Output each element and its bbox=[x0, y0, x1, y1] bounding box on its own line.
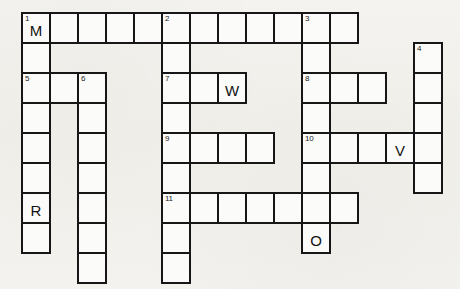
grid-cell[interactable] bbox=[77, 102, 107, 134]
cell-letter: R bbox=[23, 194, 49, 222]
grid-cell[interactable]: 4 bbox=[413, 42, 443, 74]
grid-cell[interactable] bbox=[189, 12, 219, 44]
grid-cell[interactable]: R bbox=[21, 192, 51, 224]
grid-cell[interactable]: O bbox=[301, 222, 331, 254]
grid-cell[interactable] bbox=[413, 132, 443, 164]
cell-clue-number: 6 bbox=[81, 74, 85, 83]
grid-cell[interactable] bbox=[301, 42, 331, 74]
grid-cell[interactable] bbox=[21, 42, 51, 74]
grid-cell[interactable] bbox=[245, 12, 275, 44]
grid-cell[interactable] bbox=[217, 132, 247, 164]
grid-cell[interactable]: 9 bbox=[161, 132, 191, 164]
grid-cell[interactable] bbox=[77, 12, 107, 44]
grid-cell[interactable]: V bbox=[385, 132, 415, 164]
grid-cell[interactable]: W bbox=[217, 72, 247, 104]
grid-cell[interactable] bbox=[273, 12, 303, 44]
grid-cell[interactable] bbox=[77, 252, 107, 284]
grid-cell[interactable] bbox=[301, 162, 331, 194]
grid-cell[interactable] bbox=[329, 72, 359, 104]
cell-letter: V bbox=[387, 134, 413, 162]
grid-cell[interactable] bbox=[301, 192, 331, 224]
cell-letter: O bbox=[303, 224, 329, 252]
cell-clue-number: 2 bbox=[165, 14, 169, 23]
cell-clue-number: 9 bbox=[165, 134, 169, 143]
grid-cell[interactable] bbox=[413, 102, 443, 134]
grid-cell[interactable] bbox=[357, 132, 387, 164]
grid-cell[interactable] bbox=[329, 132, 359, 164]
grid-cell[interactable] bbox=[329, 192, 359, 224]
cell-clue-number: 11 bbox=[165, 194, 173, 203]
cell-clue-number: 4 bbox=[417, 44, 421, 53]
grid-cell[interactable]: 8 bbox=[301, 72, 331, 104]
grid-cell[interactable] bbox=[161, 162, 191, 194]
cell-letter: M bbox=[23, 14, 49, 42]
grid-cell[interactable] bbox=[77, 132, 107, 164]
grid-cell[interactable]: 10 bbox=[301, 132, 331, 164]
grid-cell[interactable] bbox=[217, 192, 247, 224]
grid-cell[interactable] bbox=[133, 12, 163, 44]
grid-cell[interactable] bbox=[49, 12, 79, 44]
cell-clue-number: 7 bbox=[165, 74, 169, 83]
grid-cell[interactable]: 3 bbox=[301, 12, 331, 44]
grid-cell[interactable] bbox=[413, 162, 443, 194]
grid-cell[interactable] bbox=[245, 192, 275, 224]
grid-cell[interactable] bbox=[21, 132, 51, 164]
grid-cell[interactable] bbox=[357, 72, 387, 104]
grid-cell[interactable] bbox=[273, 192, 303, 224]
grid-cell[interactable] bbox=[189, 72, 219, 104]
cell-clue-number: 8 bbox=[305, 74, 309, 83]
grid-cell[interactable]: 5 bbox=[21, 72, 51, 104]
cell-clue-number: 10 bbox=[305, 134, 313, 143]
cell-clue-number: 5 bbox=[25, 74, 29, 83]
grid-cell[interactable] bbox=[77, 192, 107, 224]
grid-cell[interactable] bbox=[161, 222, 191, 254]
grid-cell[interactable]: 7 bbox=[161, 72, 191, 104]
grid-cell[interactable] bbox=[161, 42, 191, 74]
grid-cell[interactable] bbox=[161, 252, 191, 284]
grid-cell[interactable] bbox=[21, 222, 51, 254]
grid-cell[interactable] bbox=[189, 132, 219, 164]
cell-letter: W bbox=[219, 74, 245, 102]
grid-cell[interactable] bbox=[329, 12, 359, 44]
grid-cell[interactable] bbox=[105, 12, 135, 44]
grid-cell[interactable]: 11 bbox=[161, 192, 191, 224]
grid-cell[interactable] bbox=[77, 162, 107, 194]
grid-cell[interactable] bbox=[49, 72, 79, 104]
grid-cell[interactable] bbox=[21, 162, 51, 194]
grid-cell[interactable] bbox=[245, 132, 275, 164]
grid-cell[interactable]: 2 bbox=[161, 12, 191, 44]
cell-clue-number: 3 bbox=[305, 14, 309, 23]
grid-cell[interactable] bbox=[161, 102, 191, 134]
grid-cell[interactable] bbox=[413, 72, 443, 104]
grid-cell[interactable]: 6 bbox=[77, 72, 107, 104]
grid-cell[interactable] bbox=[77, 222, 107, 254]
crossword-grid[interactable]: 1M234567W8910VR11O bbox=[0, 0, 460, 289]
grid-cell[interactable]: 1M bbox=[21, 12, 51, 44]
grid-cell[interactable] bbox=[189, 192, 219, 224]
grid-cell[interactable] bbox=[301, 102, 331, 134]
grid-cell[interactable] bbox=[21, 102, 51, 134]
grid-cell[interactable] bbox=[217, 12, 247, 44]
